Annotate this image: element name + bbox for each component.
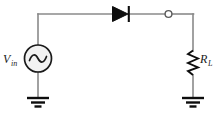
ground-right-symbol [182,98,204,107]
diode-symbol [113,6,129,22]
resistor-zigzag [188,51,198,76]
source-label-subscript: in [11,59,17,68]
wire-group [38,14,194,97]
circuit-diagram: V in R L [0,0,224,122]
diode-triangle [113,7,129,22]
load-label-subscript: L [207,59,213,68]
output-node-icon [165,11,172,18]
source-label: V in [3,52,17,68]
ground-left-symbol [27,98,49,107]
ac-source-symbol [25,45,52,72]
load-label: R L [199,52,213,68]
load-label-symbol: R [199,52,208,66]
schematic-canvas: V in R L [0,0,224,122]
